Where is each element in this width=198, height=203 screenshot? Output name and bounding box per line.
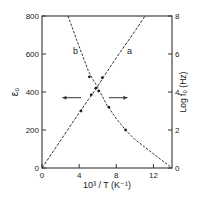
curve-a-marker	[90, 93, 93, 96]
y-left-axis-label: ε₀	[9, 88, 20, 97]
y-right-tick-label: 0	[175, 164, 180, 173]
direction-arrows	[62, 96, 127, 100]
y-left-tick-label: 0	[35, 164, 40, 173]
curve-a-marker	[101, 76, 104, 79]
curve-b	[68, 16, 172, 168]
curves	[42, 16, 172, 168]
curve-a-marker	[80, 110, 83, 113]
curve-b-marker	[124, 129, 127, 132]
curve-b-marker	[97, 90, 100, 93]
curve-b-marker	[88, 75, 91, 78]
plot-border	[42, 16, 172, 168]
y-left-tick-label: 400	[26, 88, 40, 97]
axis-ticks: 04812020040060080002468	[26, 12, 180, 180]
curve-a-marker	[94, 87, 97, 90]
data-markers	[80, 75, 127, 131]
y-right-tick-label: 6	[175, 50, 180, 59]
y-right-tick-label: 2	[175, 126, 180, 135]
x-tick-label: 8	[114, 171, 119, 180]
chart: 04812020040060080002468 a b 10³ / T (K⁻¹…	[0, 0, 198, 203]
y-left-tick-label: 600	[26, 50, 40, 59]
curve-b-marker	[107, 106, 110, 109]
curve-a	[42, 16, 145, 168]
curve-b-label: b	[73, 46, 78, 56]
x-axis-label: 10³ / T (K⁻¹)	[83, 180, 131, 190]
y-left-tick-label: 200	[26, 126, 40, 135]
curve-a-label: a	[127, 46, 132, 56]
x-tick-label: 0	[40, 171, 45, 180]
y-left-tick-label: 800	[26, 12, 40, 21]
arrow-left-head	[62, 96, 66, 100]
plot-frame	[42, 16, 172, 168]
y-right-axis-label: Log f₀ (Hz)	[178, 71, 188, 112]
x-tick-label: 12	[149, 171, 158, 180]
y-right-tick-label: 8	[175, 12, 180, 21]
arrow-right-head	[123, 96, 127, 100]
x-tick-label: 4	[77, 171, 82, 180]
